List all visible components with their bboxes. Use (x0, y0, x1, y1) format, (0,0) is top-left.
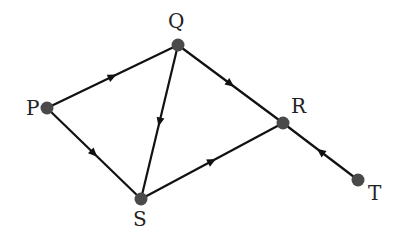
node-label-T: T (368, 181, 382, 205)
edges-group (47, 45, 358, 199)
node-label-P: P (26, 96, 39, 120)
node-label-R: R (291, 94, 307, 118)
node-T (352, 174, 365, 187)
node-label-S: S (133, 207, 147, 231)
node-S (135, 193, 148, 206)
node-P (41, 102, 54, 115)
node-R (277, 117, 290, 130)
labels-group: PQRST (26, 9, 382, 231)
node-Q (172, 39, 185, 52)
node-label-Q: Q (168, 9, 184, 33)
directed-graph: PQRST (0, 0, 399, 239)
